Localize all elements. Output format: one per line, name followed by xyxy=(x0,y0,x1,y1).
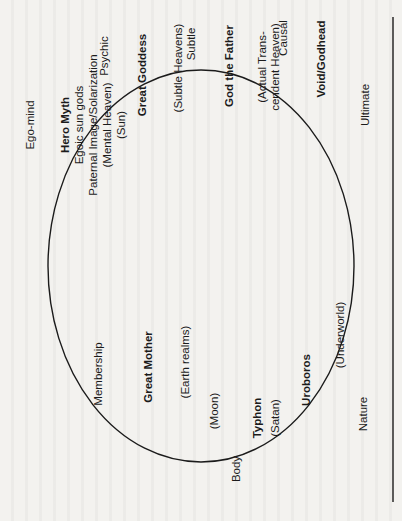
label-sun: (Sun) xyxy=(115,111,128,139)
label-ego-mind: Ego-mind xyxy=(24,100,37,149)
label-underworld: (Underworld) xyxy=(334,302,347,368)
label-egoic-sun-gods: Egoic sun gods xyxy=(73,86,86,165)
label-membership: Membership xyxy=(92,342,105,405)
label-body: Body xyxy=(230,456,243,482)
label-hero-myth: Hero Myth xyxy=(59,97,72,153)
label-typhon: Typhon xyxy=(251,398,264,439)
label-paternal-image: Paternal Image/Solarization xyxy=(87,54,100,195)
label-void-godhead: Void/Godhead xyxy=(315,20,328,97)
label-subtle: Subtle xyxy=(185,28,198,61)
label-ultimate: Ultimate xyxy=(359,84,372,126)
label-nature: Nature xyxy=(357,397,370,432)
label-great-mother: Great Mother xyxy=(142,331,155,403)
label-moon: (Moon) xyxy=(208,393,221,429)
label-mental-heaven: (Mental Heaven) xyxy=(101,82,114,167)
label-subtle-heavens: (Subtle Heavens) xyxy=(172,24,185,113)
label-satan: (Satan) xyxy=(269,399,282,437)
diagram-frame xyxy=(0,0,402,521)
label-great-goddess: Great Goddess xyxy=(136,34,149,116)
label-earth-realms: (Earth realms) xyxy=(179,326,192,399)
label-uroboros: Uroboros xyxy=(300,354,313,406)
label-actual-transcendent-heaven: (Actual Trans- cendent Heaven) xyxy=(256,23,282,111)
label-god-the-father: God the Father xyxy=(223,25,236,107)
